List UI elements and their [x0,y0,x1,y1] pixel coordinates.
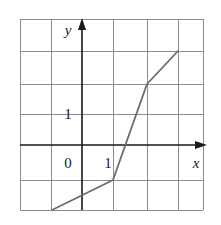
origin-label: 0 [64,155,72,171]
x-axis-label: x [192,155,200,171]
y-axis-label: y [63,22,72,38]
figure-background [0,0,221,225]
coordinate-plane-graph: y x 0 1 1 [0,0,221,225]
x-unit-tick-label: 1 [104,155,112,171]
graph-figure: y x 0 1 1 [0,0,221,225]
y-unit-tick-label: 1 [64,106,72,122]
